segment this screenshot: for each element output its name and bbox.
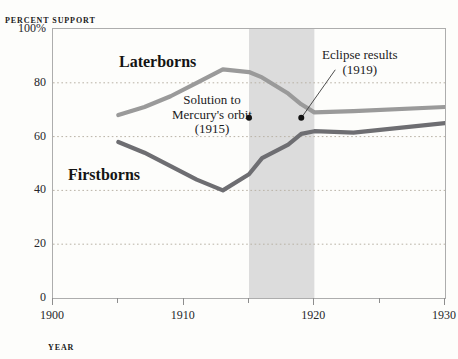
series-label-firstborns: Firstborns <box>68 166 140 184</box>
x-tick-mark-1920 <box>313 298 314 305</box>
x-tick-mark-1930 <box>444 298 445 305</box>
y-tick-label-60: 60 <box>0 128 46 143</box>
annotation-line: Mercury's orbit <box>172 108 252 123</box>
x-tick-label-1900: 1900 <box>40 308 64 323</box>
series-label-laterborns: Laterborns <box>119 53 196 71</box>
x-tick-label-1930: 1930 <box>432 308 456 323</box>
x-tick-mark-1910 <box>183 298 184 305</box>
annotation-line: Solution to <box>172 93 252 108</box>
x-axis-label: YEAR <box>48 343 74 352</box>
x-tick-mark-1900 <box>52 298 53 305</box>
y-tick-label-100: 100% <box>0 21 46 36</box>
y-tick-label-0: 0 <box>0 290 46 305</box>
annotation-line: Eclipse results <box>322 48 397 63</box>
annotation-line: (1915) <box>172 122 252 137</box>
x-tick-mark-1905 <box>117 298 118 303</box>
x-tick-mark-1925 <box>379 298 380 303</box>
y-tick-label-20: 20 <box>0 236 46 251</box>
x-tick-label-1910: 1910 <box>171 308 195 323</box>
chart-container: PERCENT SUPPORT YEAR 100%806040200 Solut… <box>0 0 458 359</box>
y-tick-label-80: 80 <box>0 74 46 89</box>
annotation-mercury: Solution toMercury's orbit(1915) <box>172 93 252 137</box>
annotation-line: (1919) <box>322 63 397 78</box>
y-tick-label-40: 40 <box>0 182 46 197</box>
x-tick-mark-1915 <box>248 298 249 303</box>
annotation-point-eclipse <box>298 115 304 121</box>
y-axis-tick-labels: 100%806040200 <box>0 0 46 359</box>
x-tick-label-1920: 1920 <box>301 308 325 323</box>
annotation-eclipse: Eclipse results(1919) <box>322 48 397 77</box>
